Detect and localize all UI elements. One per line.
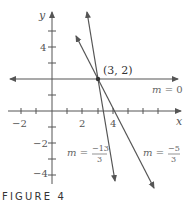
slope-m-text: m = (152, 84, 176, 95)
slope-denominator: 3 (171, 155, 176, 164)
slope-value: 0 (176, 84, 182, 95)
figure-plot: y x −2 2 4 4 −2 −4 (3, 2) m = 0 m = −13 … (0, 0, 188, 205)
slope-numerator: −5 (168, 144, 180, 153)
intersection-point (96, 77, 100, 81)
figure-caption: FIGURE 4 (2, 191, 66, 202)
line-slope-neg-5-3-down (98, 79, 154, 188)
point-label: (3, 2) (103, 64, 133, 77)
x-axis-label: x (176, 115, 183, 128)
x-axis (8, 108, 181, 114)
x-tick-label: 2 (79, 118, 85, 129)
slope-label-zero: m = 0 (152, 84, 183, 95)
slope-m-text: m = (143, 147, 164, 158)
y-axis-label: y (38, 9, 46, 22)
y-tick-label: −4 (33, 168, 48, 179)
y-tick-label: −2 (33, 138, 48, 149)
slope-label-neg-5-3: m = −5 3 (143, 144, 180, 164)
slope-denominator: 3 (97, 155, 102, 164)
slope-label-neg-13-3: m = −13 3 (67, 144, 109, 164)
x-tick-label: 4 (110, 118, 116, 129)
slope-m-text: m = (67, 147, 88, 158)
x-tick-label: −2 (12, 118, 27, 129)
y-axis (48, 12, 56, 184)
slope-numerator: −13 (92, 144, 109, 153)
svg-text:m = 0: m = 0 (152, 84, 183, 95)
y-tick-label: 4 (40, 42, 46, 53)
